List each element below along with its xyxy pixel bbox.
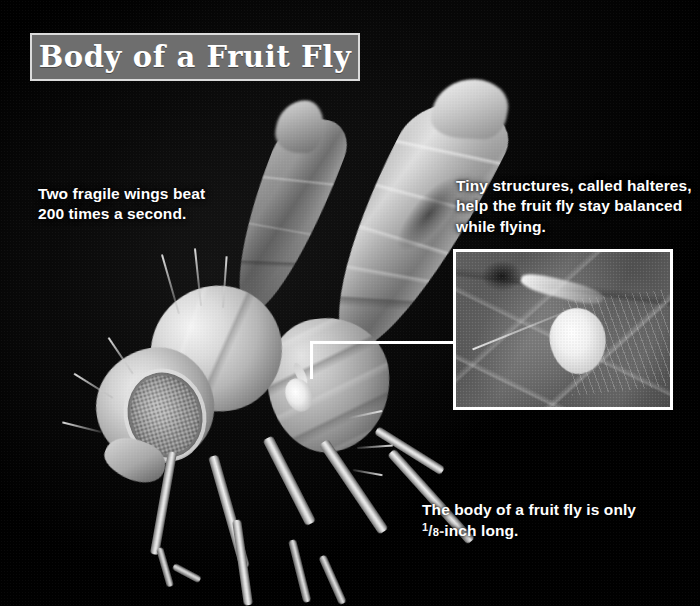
page-title: Body of a Fruit Fly [39,40,352,74]
leader-line-horizontal [310,341,456,344]
halteres-inset-photo [453,249,673,410]
caption-body-size: The body of a fruit fly is only 1/8-inch… [422,500,652,542]
leader-line-vertical [310,341,313,379]
infographic-canvas: Body of a Fruit Fly Two fragile wings be… [0,0,700,606]
fraction-one-eighth: 1/8 [422,520,439,541]
caption-wings: Two fragile wings beat 200 times a secon… [38,184,228,225]
caption-halteres: Tiny structures, called halteres, help t… [456,176,692,237]
inset-grain [456,252,670,407]
title-plate: Body of a Fruit Fly [30,33,360,81]
fraction-denominator: 8 [433,525,439,537]
caption-size-prefix: The body of a fruit fly is only [422,501,636,518]
caption-size-suffix: -inch long. [439,522,518,539]
